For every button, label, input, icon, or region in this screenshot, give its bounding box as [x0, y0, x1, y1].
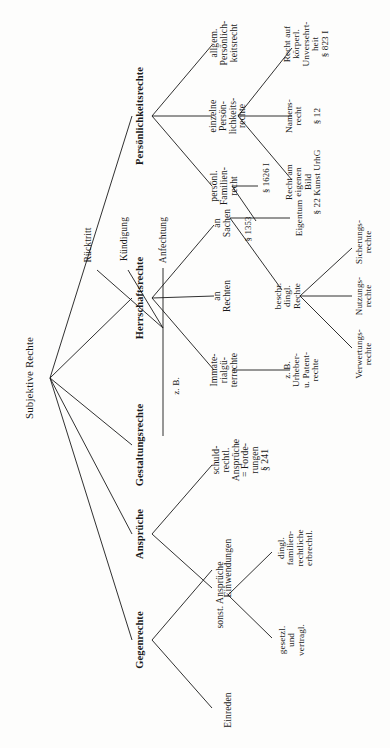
- node-paragraph-1626[interactable]: § 1626 I: [262, 163, 271, 193]
- node-namensrecht[interactable]: Namens- recht § 12: [285, 99, 323, 133]
- node-anfechtung[interactable]: Anfechtung: [158, 217, 168, 263]
- node-kuendigung[interactable]: Kündigung: [119, 217, 129, 261]
- edge-persoenlich-familienrecht: [152, 116, 212, 186]
- node-einreden[interactable]: Einreden: [223, 692, 233, 727]
- node-recht-koerperl-unversehrtheit[interactable]: Recht auf körperl. Unversehrt- heit § 82…: [283, 22, 330, 67]
- edge-root-gegenrechte: [50, 378, 132, 640]
- node-urheber-patentrechte[interactable]: z. B. Urheber- u. Patent- rechte: [283, 352, 321, 388]
- edge-ansachen-beschrdingl: [230, 218, 282, 290]
- node-sicherungsrechte[interactable]: Sicherungs- rechte: [355, 220, 373, 264]
- node-beschr-dingl-rechte[interactable]: beschr. dingl. Rechte: [274, 283, 302, 309]
- node-gestaltungsrechte-zb: z. B.: [172, 377, 181, 395]
- node-persoenlichkeitsrechte[interactable]: Persönlichkeitsrechte: [135, 67, 146, 165]
- edge-herrschaft-immaterial: [152, 298, 214, 370]
- node-an-sachen[interactable]: an Sachen: [212, 209, 232, 237]
- node-allgem-persoenlichkeitsrecht[interactable]: allgem. Persönlich- keitsrecht: [209, 21, 238, 66]
- node-paragraph-1353[interactable]: § 1353: [244, 217, 253, 242]
- node-herrschaftsrechte[interactable]: Herrschaftsrechte: [135, 257, 146, 340]
- node-gegenrechte[interactable]: Gegenrechte: [135, 611, 146, 668]
- node-ansprueche[interactable]: Ansprüche: [135, 509, 146, 559]
- edge-beschrdingl-sicherungs: [300, 248, 352, 296]
- node-recht-am-eigenen-bild[interactable]: Recht am eigenen Bild § 22 Kunst UrhG: [285, 149, 323, 214]
- rotated-diagram-wrapper: Subjektive Rechte Gegenrechte Ansprüche …: [0, 0, 390, 748]
- node-persoenl-familienrecht[interactable]: persönl. Familien- recht: [209, 167, 238, 205]
- edge-ansprueche-schuldrechtl: [152, 465, 212, 534]
- edge-sonstige-gesetzl: [228, 595, 272, 638]
- node-nutzungsrechte[interactable]: Nutzungs- rechte: [355, 277, 373, 315]
- node-verwertungsrechte[interactable]: Verwertungs- rechte: [355, 329, 373, 379]
- edge-beschrdingl-verwertungs: [300, 296, 352, 348]
- page-canvas: Subjektive Rechte Gegenrechte Ansprüche …: [0, 0, 390, 748]
- edge-persoenlich-allgem: [152, 45, 212, 116]
- edge-gegenrechte-einreden: [152, 640, 212, 708]
- node-immaterialgueterrechte[interactable]: Immate- rialgü- terrechte: [209, 353, 238, 387]
- node-einzelne-persoenlichkeitsrechte[interactable]: einzelne Persön- lichkeits- rechte: [208, 98, 247, 135]
- tree-edges: [0, 0, 390, 748]
- edge-root-gestaltungsrechte: [50, 378, 132, 445]
- node-dingl-familienrechtl-erbrechtl[interactable]: dingl. familien- rechtliche erbrechtl.: [277, 529, 315, 566]
- node-root[interactable]: Subjektive Rechte: [24, 337, 35, 419]
- node-sonst-ansprueche[interactable]: sonst. Ansprüche: [215, 561, 225, 628]
- edge-sonstige-dingl: [228, 552, 272, 595]
- node-ruecktritt[interactable]: Rücktritt: [83, 227, 93, 262]
- node-an-rechten[interactable]: an Rechten: [212, 280, 232, 312]
- edge-ansprueche-sonstige: [152, 534, 212, 588]
- edge-herrschaft-anrechten: [152, 296, 214, 298]
- tree-diagram: Subjektive Rechte Gegenrechte Ansprüche …: [0, 0, 390, 748]
- edge-root-ansprueche: [50, 378, 132, 534]
- node-schuldrechtl-ansprueche[interactable]: schuld- rechtl. Ansprüche = Forde- runge…: [211, 439, 270, 481]
- node-gesetzl-vertragl[interactable]: gesetzl. und vertragl.: [278, 624, 306, 656]
- node-gestaltungsrechte[interactable]: Gestaltungsrechte: [135, 404, 146, 487]
